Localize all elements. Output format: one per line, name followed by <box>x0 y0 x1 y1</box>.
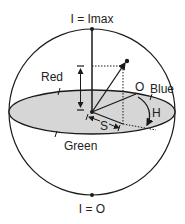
label-red: Red <box>41 70 63 84</box>
label-imax: I = Imax <box>70 12 113 26</box>
label-i0: I = O <box>79 202 105 216</box>
color-point <box>125 59 129 63</box>
top-point <box>90 27 94 31</box>
label-green: Green <box>64 139 97 153</box>
label-saturation: S <box>100 119 108 133</box>
label-origin-o: O <box>135 80 144 94</box>
label-blue: Blue <box>150 82 174 96</box>
label-hue: H <box>152 106 161 120</box>
hsi-diagram: I = Imax I = O Red Blue Green O H S <box>0 0 185 224</box>
bottom-point <box>90 193 94 197</box>
